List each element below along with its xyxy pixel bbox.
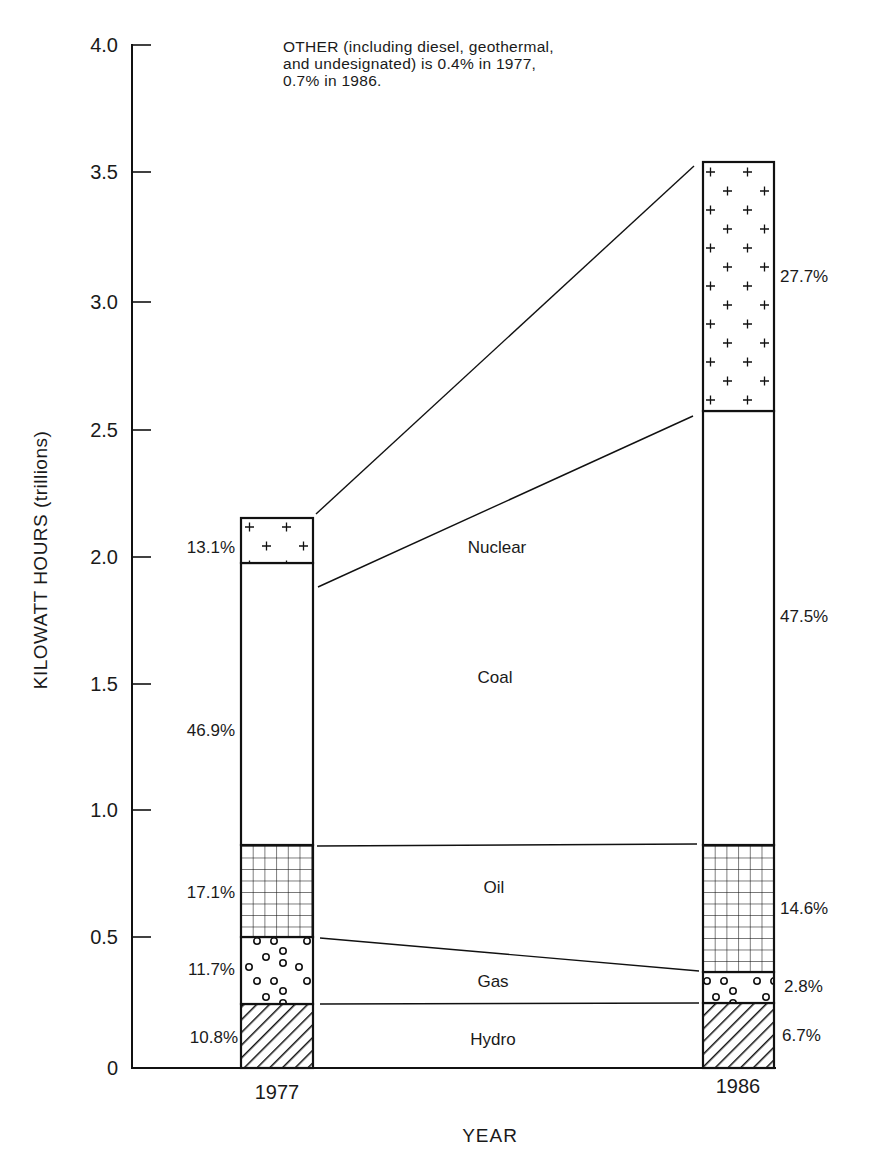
pct-hydro-1977: 10.8% — [190, 1028, 238, 1047]
label-coal: Coal — [478, 668, 513, 687]
x-axis: 1977 1986 YEAR — [131, 1068, 776, 1146]
y-tick-label: 0 — [107, 1057, 118, 1079]
label-hydro: Hydro — [470, 1030, 515, 1049]
label-nuclear: Nuclear — [468, 538, 527, 557]
x-tick-label-1977: 1977 — [255, 1081, 300, 1103]
segment-hydro-1977 — [241, 1004, 313, 1068]
stacked-bar-chart: 4.0 3.5 3.0 2.5 2.0 1.5 1.0 0.5 0 KILOWA… — [0, 0, 869, 1171]
segment-nuclear-1986 — [703, 162, 774, 411]
pct-coal-1986: 47.5% — [780, 607, 828, 626]
y-axis-label: KILOWATT HOURS (trillions) — [30, 431, 51, 690]
bar-1977 — [241, 518, 313, 1068]
y-tick-label: 1.5 — [90, 673, 118, 695]
segment-coal-1986 — [703, 411, 774, 845]
pct-oil-1986: 14.6% — [780, 899, 828, 918]
y-tick-labels: 4.0 3.5 3.0 2.5 2.0 1.5 1.0 0.5 0 — [90, 34, 118, 1079]
y-tick-label: 2.0 — [90, 546, 118, 568]
label-gas: Gas — [477, 972, 508, 991]
connector-lines — [316, 166, 699, 1004]
segment-gas-1986 — [703, 972, 774, 1003]
series-labels: Nuclear Coal Oil Gas Hydro — [468, 538, 527, 1049]
pct-coal-1977: 46.9% — [187, 721, 235, 740]
label-oil: Oil — [484, 878, 505, 897]
y-axis: 4.0 3.5 3.0 2.5 2.0 1.5 1.0 0.5 0 KILOWA… — [30, 34, 151, 1079]
pct-gas-1986: 2.8% — [784, 977, 823, 996]
pct-hydro-1986: 6.7% — [782, 1026, 821, 1045]
segment-oil-1977 — [241, 845, 313, 937]
pct-gas-1977: 11.7% — [188, 960, 235, 979]
percent-labels-1977: 13.1% 46.9% 17.1% 11.7% 10.8% — [187, 538, 238, 1047]
segment-hydro-1986 — [703, 1003, 774, 1068]
pct-oil-1977: 17.1% — [187, 883, 235, 902]
segment-gas-1977 — [241, 937, 313, 1004]
y-tick-label: 1.0 — [90, 799, 118, 821]
y-tick-label: 0.5 — [90, 926, 118, 948]
segment-nuclear-1977 — [241, 518, 313, 563]
y-tick-label: 3.5 — [90, 161, 118, 183]
y-ticks — [132, 45, 151, 937]
segment-oil-1986 — [703, 845, 774, 972]
percent-labels-1986: 27.7% 47.5% 14.6% 2.8% 6.7% — [780, 267, 828, 1045]
bar-1986 — [703, 162, 774, 1068]
x-axis-label: YEAR — [462, 1125, 518, 1146]
segment-coal-1977 — [241, 563, 313, 845]
y-tick-label: 4.0 — [90, 34, 118, 56]
x-tick-label-1986: 1986 — [716, 1075, 761, 1097]
y-tick-label: 2.5 — [90, 419, 118, 441]
y-tick-label: 3.0 — [90, 291, 118, 313]
pct-nuclear-1986: 27.7% — [780, 267, 828, 286]
pct-nuclear-1977: 13.1% — [187, 538, 235, 557]
